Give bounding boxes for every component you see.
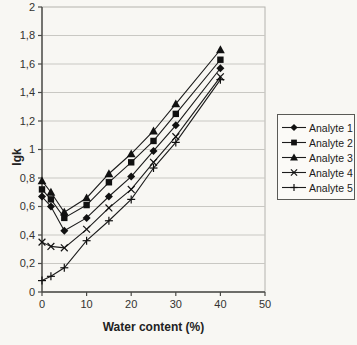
marker-x — [106, 205, 113, 212]
legend-item-analyte-4: Analyte 4 — [282, 165, 354, 180]
x-tick-label: 10 — [80, 298, 92, 310]
marker-square — [173, 111, 179, 117]
marker-square — [106, 179, 112, 185]
marker-plus — [47, 272, 55, 280]
marker-triangle — [216, 45, 225, 53]
diamond-marker-icon — [282, 122, 306, 133]
y-tick-label: 1,2 — [20, 115, 35, 127]
x-tick-label: 50 — [259, 298, 271, 310]
x-tick-label: 40 — [214, 298, 226, 310]
series-line — [42, 50, 220, 212]
legend-label: Analyte 5 — [309, 182, 353, 194]
square-marker-icon — [282, 137, 306, 148]
marker-square — [83, 202, 89, 208]
marker-triangle — [60, 208, 69, 216]
y-tick-label: 1,4 — [20, 86, 35, 98]
x-marker-icon — [282, 167, 306, 178]
legend-label: Analyte 4 — [309, 167, 353, 179]
y-tick-label: 0,6 — [20, 200, 35, 212]
marker-square — [61, 215, 67, 221]
marker-diamond — [60, 227, 68, 235]
legend-label: Analyte 3 — [309, 152, 353, 164]
marker-square — [150, 138, 156, 144]
marker-x — [83, 226, 90, 233]
plus-marker-icon — [282, 182, 306, 193]
y-tick-label: 1,8 — [20, 29, 35, 41]
y-tick-label: 0,4 — [20, 229, 35, 241]
y-tick-label: 1,6 — [20, 58, 35, 70]
marker-square — [291, 140, 297, 146]
legend-item-analyte-3: Analyte 3 — [282, 150, 354, 165]
legend-item-analyte-1: Analyte 1 — [282, 120, 354, 135]
marker-square — [39, 186, 45, 192]
y-tick-label: 1 — [29, 143, 35, 155]
y-tick-label: 0,2 — [20, 257, 35, 269]
marker-plus — [290, 184, 297, 191]
marker-x — [128, 186, 135, 193]
y-axis-title: lgk — [10, 142, 24, 172]
marker-diamond — [290, 124, 297, 131]
x-tick-label: 0 — [39, 298, 45, 310]
marker-square — [128, 159, 134, 165]
marker-square — [217, 57, 223, 63]
chart-container: 00,20,40,60,811,21,41,61,8201020304050 l… — [0, 0, 357, 345]
legend-item-analyte-5: Analyte 5 — [282, 180, 354, 195]
triangle-marker-icon — [282, 152, 306, 163]
marker-square — [48, 196, 54, 202]
series-line — [42, 60, 220, 218]
x-tick-label: 30 — [170, 298, 182, 310]
y-tick-label: 2 — [29, 1, 35, 13]
marker-plus — [38, 277, 46, 285]
marker-plus — [216, 76, 224, 84]
x-axis-title: Water content (%) — [42, 320, 265, 334]
x-tick-label: 20 — [125, 298, 137, 310]
legend: Analyte 1Analyte 2Analyte 3Analyte 4Anal… — [277, 114, 355, 200]
legend-item-analyte-2: Analyte 2 — [282, 135, 354, 150]
legend-label: Analyte 2 — [309, 137, 353, 149]
y-tick-label: 0 — [29, 286, 35, 298]
legend-label: Analyte 1 — [309, 122, 353, 134]
y-tick-label: 0,8 — [20, 172, 35, 184]
